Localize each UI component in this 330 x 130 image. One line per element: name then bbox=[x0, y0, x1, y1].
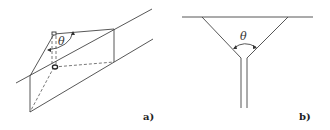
circle-marker bbox=[52, 65, 57, 69]
funnel-left-wall bbox=[202, 17, 241, 58]
panel-b-label: b) bbox=[299, 111, 311, 122]
arc-arrowhead-top bbox=[71, 31, 75, 35]
panel-a: θ a) bbox=[16, 9, 154, 122]
figure: θ a) θ b) bbox=[0, 0, 330, 130]
theta-label-b: θ bbox=[240, 30, 247, 43]
top-left-edge bbox=[30, 34, 54, 76]
panel-b: θ b) bbox=[182, 17, 313, 122]
upper-rail-line bbox=[16, 9, 152, 83]
arc-arrowhead-left bbox=[47, 48, 51, 52]
top-ridge-edge bbox=[54, 29, 114, 34]
funnel-right-wall bbox=[247, 17, 288, 58]
theta-label-a: θ bbox=[58, 35, 65, 48]
arc-b-arrowhead-left bbox=[233, 45, 237, 49]
panel-a-label: a) bbox=[143, 111, 154, 122]
hidden-edge-horizontal bbox=[54, 62, 114, 67]
square-marker bbox=[52, 32, 56, 35]
angle-arc-b bbox=[234, 44, 256, 48]
